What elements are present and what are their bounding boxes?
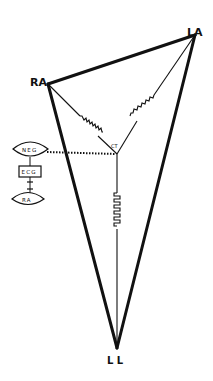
vertex-label-la: LA (187, 26, 203, 39)
resistor-ra-ct (80, 116, 103, 132)
lead-I-edge (48, 35, 195, 84)
lead-III-edge (117, 35, 195, 348)
ecg-label: ECG (22, 169, 37, 175)
vertex-label-ll: L L (107, 355, 124, 366)
limb-lead-triangle (48, 35, 195, 348)
neg-to-ct-dotted-wire (47, 152, 116, 154)
resistor-la-ct (130, 95, 154, 116)
einthoven-triangle-diagram: NEG ECG RA RA LA CT L L (0, 0, 213, 381)
lead-II-edge (48, 84, 117, 348)
ecg-module: NEG ECG RA (12, 142, 48, 205)
ra-electrode-label: RA (22, 197, 32, 203)
vertex-label-ra: RA (30, 76, 47, 89)
neg-label: NEG (22, 147, 37, 153)
central-terminal-wires (48, 35, 195, 348)
central-terminal-label: CT (111, 143, 118, 149)
resistor-ct-ll (114, 193, 120, 226)
